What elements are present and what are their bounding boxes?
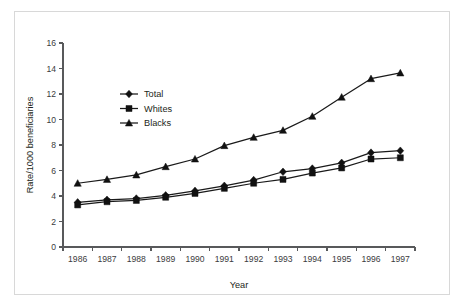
data-point-blacks-1993 — [279, 127, 286, 134]
x-tick-label: 1995 — [332, 254, 351, 264]
y-tick-label: 16 — [46, 38, 56, 48]
y-tick-label: 8 — [51, 140, 56, 150]
data-point-total-1997 — [397, 147, 404, 155]
data-point-whites-1986 — [75, 202, 81, 208]
y-tick-label: 0 — [51, 242, 56, 252]
legend-marker-diamond — [126, 90, 133, 98]
series-line-whites — [78, 158, 401, 205]
legend-marker-square — [126, 106, 132, 112]
legend-label-whites: Whites — [144, 104, 172, 114]
x-tick-label: 1996 — [361, 254, 380, 264]
y-tick-label: 6 — [51, 166, 56, 176]
data-point-whites-1995 — [339, 165, 345, 171]
data-point-blacks-1995 — [338, 94, 345, 101]
legend-label-total: Total — [144, 89, 163, 99]
chart-figure: 0246810121416198619871988198919901991199… — [0, 0, 465, 308]
data-point-blacks-1994 — [309, 113, 316, 120]
data-point-whites-1993 — [280, 176, 286, 182]
x-tick-label: 1986 — [68, 254, 87, 264]
x-tick-label: 1990 — [185, 254, 204, 264]
data-point-blacks-1990 — [191, 155, 198, 162]
y-tick-label: 12 — [46, 89, 56, 99]
x-tick-label: 1992 — [244, 254, 263, 264]
legend-item-whites[interactable]: Whites — [120, 104, 172, 114]
legend-item-total[interactable]: Total — [120, 89, 163, 99]
data-point-whites-1987 — [104, 199, 110, 205]
x-tick-label: 1993 — [273, 254, 292, 264]
y-tick-label: 14 — [46, 64, 56, 74]
data-point-whites-1994 — [309, 170, 315, 176]
line-chart-plot: 0246810121416198619871988198919901991199… — [0, 0, 465, 308]
data-point-whites-1997 — [397, 155, 403, 161]
y-tick-label: 4 — [51, 191, 56, 201]
y-axis-title: Rate/1000 beneficiaries — [25, 96, 35, 193]
x-tick-label: 1989 — [156, 254, 175, 264]
x-axis-title: Year — [230, 280, 249, 290]
data-point-whites-1991 — [221, 185, 227, 191]
x-tick-label: 1991 — [215, 254, 234, 264]
legend-item-blacks[interactable]: Blacks — [120, 118, 171, 128]
data-point-total-1996 — [368, 149, 375, 157]
y-tick-label: 2 — [51, 217, 56, 227]
series-blacks — [74, 69, 404, 186]
x-tick-label: 1994 — [303, 254, 322, 264]
x-tick-label: 1988 — [127, 254, 146, 264]
data-point-whites-1989 — [163, 194, 169, 200]
data-point-blacks-1997 — [397, 69, 404, 76]
data-point-whites-1992 — [251, 180, 257, 186]
series-line-blacks — [78, 73, 401, 183]
y-tick-label: 10 — [46, 115, 56, 125]
data-point-whites-1988 — [133, 197, 139, 203]
x-tick-label: 1987 — [97, 254, 116, 264]
data-point-whites-1990 — [192, 190, 198, 196]
data-point-whites-1996 — [368, 156, 374, 162]
legend-label-blacks: Blacks — [144, 118, 171, 128]
x-tick-label: 1997 — [391, 254, 410, 264]
axis-lines — [63, 43, 415, 247]
data-point-total-1993 — [280, 168, 287, 176]
series-whites — [75, 155, 404, 208]
